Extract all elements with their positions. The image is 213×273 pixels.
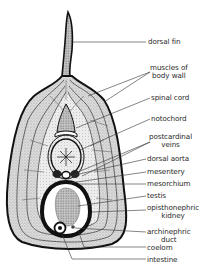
- label-spinal-cord: spinal cord: [151, 94, 189, 102]
- label-mesentery: mesentery: [147, 168, 185, 176]
- label-notochord: notochord: [151, 115, 187, 123]
- label-muscles-of-body-wall: muscles of body wall: [150, 64, 188, 79]
- label-mesorchium: mesorchium: [147, 180, 190, 188]
- label-intestine: intestine: [147, 256, 177, 264]
- testis-shape: [55, 188, 80, 226]
- label-dorsal-aorta: dorsal aorta: [147, 155, 189, 163]
- label-testis: testis: [147, 192, 166, 200]
- dorsal-aorta-shape: [62, 172, 70, 179]
- label-coelom: coelom: [147, 244, 173, 252]
- label-archinephric-duct: archinephric duct: [147, 228, 191, 243]
- dorsal-fin-shape: [62, 12, 72, 76]
- label-opisthonephric-kidney: opisthonephric kidney: [147, 204, 199, 219]
- archinephric-duct-shape: [71, 225, 75, 229]
- postcardinal-vein-left: [53, 170, 62, 178]
- label-dorsal-fin: dorsal fin: [148, 38, 180, 46]
- label-postcardinal-veins: postcardinal veins: [149, 133, 192, 148]
